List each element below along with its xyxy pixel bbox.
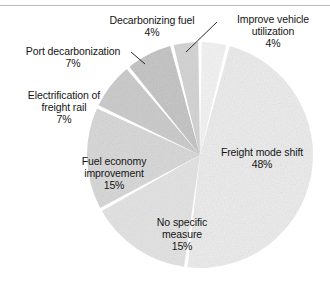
slice-label-text: Port decarbonization [26,45,120,57]
slice-label-text: Electrification of [28,89,100,101]
slice-label-percent: 4% [100,26,204,38]
slice-label-text: No specific [157,216,207,228]
slice-label-percent: 4% [219,37,327,49]
slice-label-text-2: utilization [219,25,327,37]
slice-label-decarbonizing-fuel: Decarbonizing fuel 4% [100,14,204,38]
slice-label-percent: 15% [134,240,230,252]
slice-label-improve-vehicle-utilization: Improve vehicle utilization 4% [219,13,327,50]
slice-label-percent: 7% [4,57,142,69]
slice-label-text-2: measure [134,228,230,240]
slice-label-port-decarbonization: Port decarbonization 7% [4,45,142,69]
slice-label-text: Decarbonizing fuel [109,14,194,26]
slice-label-no-specific-measure: No specific measure 15% [134,216,230,253]
slice-label-electrification-of-freight-rail: Electrification of freight rail 7% [6,89,122,126]
slice-label-text: Fuel economy [82,155,147,167]
slice-label-text-2: improvement [56,167,172,179]
slice-label-percent: 48% [207,158,317,170]
slice-label-fuel-economy-improvement: Fuel economy improvement 15% [56,155,172,192]
slice-label-percent: 7% [6,113,122,125]
slice-label-text-2: freight rail [6,101,122,113]
slice-label-freight-mode-shift: Freight mode shift 48% [207,146,317,170]
slice-label-text: Improve vehicle [237,13,309,25]
pie-chart-figure: Decarbonizing fuel 4% Improve vehicle ut… [0,0,330,292]
slice-label-text: Freight mode shift [221,146,303,158]
slice-label-percent: 15% [56,179,172,191]
